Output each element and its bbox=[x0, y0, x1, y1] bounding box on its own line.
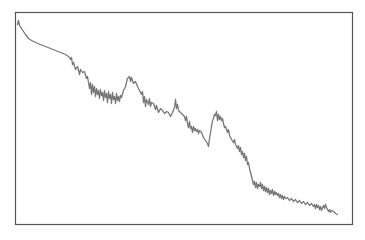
line-chart bbox=[0, 0, 365, 240]
